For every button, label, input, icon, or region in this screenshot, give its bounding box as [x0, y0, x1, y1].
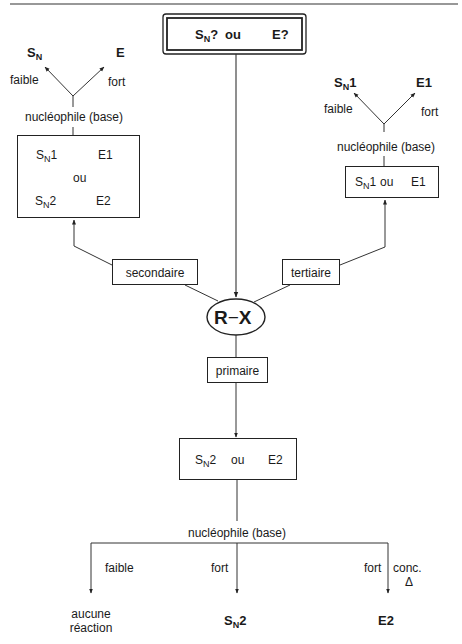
tertiaire-box: tertiaire — [282, 259, 340, 285]
left-label-faible: faible — [10, 74, 39, 86]
bottom-box-ou: ou — [231, 454, 244, 466]
right-sn1-result: SN1 — [334, 76, 356, 89]
left-box-e1: E1 — [98, 149, 113, 161]
right-nucleophile-label: nucléophile (base) — [337, 141, 435, 153]
bottom-label-conc: conc. — [393, 562, 422, 574]
right-box-sn1: SN1 — [355, 176, 376, 188]
right-label-fort: fort — [421, 106, 438, 118]
bottom-box-sn2: SN2 — [195, 454, 216, 466]
result-aucune: aucune — [71, 608, 110, 620]
left-box-sn2: SN2 — [35, 195, 56, 207]
result-e2: E2 — [378, 614, 394, 627]
secondaire-box: secondaire — [112, 259, 198, 285]
right-box-ou: ou — [380, 176, 393, 188]
left-box-sn1: SN1 — [36, 149, 57, 161]
left-box-ou: ou — [73, 172, 86, 184]
ou-label: ou — [225, 28, 241, 41]
tertiaire-label: tertiaire — [291, 267, 331, 279]
sn-question: SN? — [195, 28, 218, 41]
secondaire-label: secondaire — [126, 267, 185, 279]
left-e-result: E — [116, 46, 125, 59]
right-e1-result: E1 — [416, 76, 432, 89]
left-sn-result: SN — [27, 46, 42, 59]
substrate-rx: R−X — [214, 308, 252, 327]
primaire-box: primaire — [207, 357, 268, 383]
bottom-box-e2: E2 — [268, 454, 283, 466]
right-label-faible: faible — [324, 103, 353, 115]
bottom-nucleophile-label: nucléophile (base) — [188, 527, 286, 539]
result-reaction: réaction — [70, 622, 113, 634]
e-question: E? — [272, 28, 289, 41]
left-nucleophile-label: nucléophile (base) — [25, 111, 123, 123]
right-box-e1: E1 — [411, 176, 426, 188]
result-sn2: SN2 — [224, 614, 246, 627]
bottom-label-delta: Δ — [405, 576, 413, 588]
left-label-fort: fort — [108, 76, 125, 88]
bottom-label-fort-1: fort — [211, 562, 228, 574]
left-box-e2: E2 — [96, 195, 111, 207]
bottom-label-fort-2: fort — [364, 562, 381, 574]
bottom-label-faible: faible — [105, 562, 134, 574]
primaire-label: primaire — [216, 365, 259, 377]
